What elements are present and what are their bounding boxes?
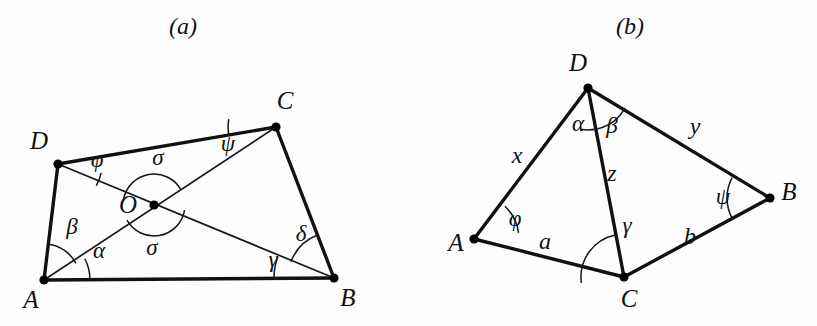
vertex-dot-C	[271, 122, 280, 131]
vertex-dot-C	[619, 272, 628, 281]
vertex-label-B: B	[340, 284, 355, 311]
angle-label-alpha: α	[93, 238, 106, 263]
angle-label-gamma: γ	[622, 213, 632, 238]
angle-label-beta: β	[605, 113, 618, 138]
vertex-label-A: A	[21, 286, 39, 313]
vertex-label-D: D	[568, 49, 587, 76]
edge-CB	[624, 198, 770, 277]
figure-container: ABCDOαβγδφψσσ(a)ABCDαβγφψxyzab(b)	[0, 0, 817, 326]
angle-label-phi: φ	[91, 147, 104, 172]
vertex-label-A: A	[446, 229, 464, 256]
side-label-side-z: z	[606, 160, 617, 186]
angle-label-sigma-upper: σ	[152, 145, 165, 170]
angle-label-phi: φ	[509, 206, 522, 231]
edge-DA	[474, 88, 588, 239]
angle-label-delta: δ	[296, 221, 307, 246]
vertex-dot-B	[329, 273, 338, 282]
alpha-arc	[85, 259, 90, 280]
vertex-dot-D	[53, 159, 62, 168]
vertex-dot-B	[765, 193, 774, 202]
side-label-side-y: y	[688, 113, 701, 139]
angle-label-alpha: α	[572, 111, 585, 136]
edge-DA	[44, 164, 58, 280]
edge-AB	[44, 278, 334, 280]
vertex-label-O: O	[119, 191, 137, 218]
vertex-dot-O	[149, 200, 158, 209]
vertex-label-B: B	[781, 178, 796, 205]
angle-label-sigma-lower: σ	[146, 235, 159, 260]
vertex-label-D: D	[29, 127, 48, 154]
angle-label-beta: β	[65, 214, 78, 239]
vertex-dot-A	[469, 234, 478, 243]
edge-BC	[276, 127, 334, 278]
angle-label-psi: ψ	[221, 131, 236, 156]
vertex-dot-D	[583, 83, 592, 92]
angle-label-psi: ψ	[716, 184, 731, 209]
caption-panel-a: (a)	[169, 13, 197, 39]
side-label-side-b: b	[684, 223, 696, 249]
vertex-label-C: C	[277, 87, 294, 114]
side-label-side-x: x	[511, 142, 523, 168]
angle-label-gamma: γ	[268, 247, 278, 272]
side-label-side-a: a	[539, 228, 551, 254]
caption-panel-b: (b)	[616, 13, 644, 39]
geometry-figure: ABCDOαβγδφψσσ(a)ABCDαβγφψxyzab(b)	[0, 0, 817, 326]
vertex-dot-A	[39, 275, 48, 284]
gamma-arc	[581, 235, 615, 283]
panel-a: ABCDOαβγδφψσσ(a)	[21, 13, 355, 313]
panel-b: ABCDαβγφψxyzab(b)	[446, 13, 796, 312]
beta-arc	[48, 244, 76, 263]
vertex-label-C: C	[621, 285, 638, 312]
